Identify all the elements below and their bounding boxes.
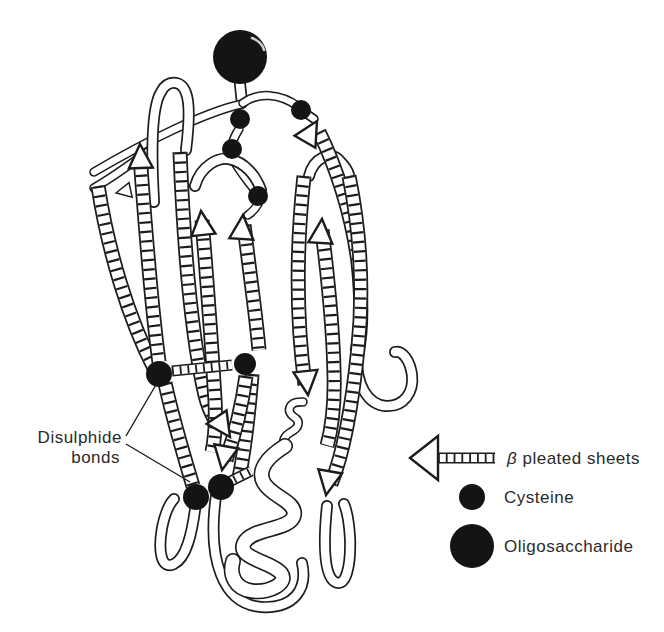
legend-oligosaccharide-circle bbox=[450, 524, 494, 568]
pointer-line-upper bbox=[126, 383, 157, 436]
legend-beta-text: pleated sheets bbox=[517, 449, 640, 468]
beta-strand bbox=[165, 383, 193, 486]
arrowhead-icon bbox=[189, 210, 215, 236]
legend-arrowhead-icon bbox=[410, 436, 438, 480]
beta-strand bbox=[244, 225, 259, 350]
right-hook-loop bbox=[357, 352, 412, 406]
cysteine-dot bbox=[222, 139, 242, 159]
protein-diagram: Disulphide bonds β pleated sheets Cystei… bbox=[0, 0, 664, 632]
legend-label-oligosaccharide: Oligosaccharide bbox=[504, 537, 633, 556]
cysteine-dot bbox=[248, 186, 268, 206]
disulphide-bond-bar bbox=[172, 365, 232, 371]
fork-right-loop bbox=[243, 96, 299, 107]
legend-cysteine-circle bbox=[459, 484, 485, 510]
small-hollow-arrowhead-icon bbox=[114, 183, 132, 201]
beta-strand bbox=[298, 176, 305, 385]
legend: β pleated sheets Cysteine Oligosaccharid… bbox=[410, 436, 640, 568]
cysteine-dot bbox=[230, 109, 250, 129]
beta-strand bbox=[202, 220, 215, 452]
beta-strand bbox=[322, 230, 334, 446]
cysteine-dot bbox=[183, 484, 209, 510]
figure: Disulphide bonds β pleated sheets Cystei… bbox=[0, 0, 664, 632]
cysteine-dot bbox=[234, 353, 256, 375]
legend-label-beta-sheets: β pleated sheets bbox=[506, 449, 640, 468]
disulphide-label-line2: bonds bbox=[71, 448, 120, 467]
bottom-left-hairpin-loop bbox=[160, 499, 196, 565]
cysteine-dot bbox=[208, 474, 234, 500]
oligosaccharide-ball bbox=[213, 30, 267, 84]
bottom-right-hairpin-loop bbox=[325, 504, 350, 583]
cysteine-dot bbox=[146, 361, 172, 387]
arrowhead-icon bbox=[308, 218, 334, 244]
disulphide-label-line1: Disulphide bbox=[38, 428, 122, 447]
oligosaccharide-circle bbox=[213, 30, 267, 84]
legend-label-cysteine: Cysteine bbox=[504, 488, 574, 507]
beta-glyph: β bbox=[506, 449, 517, 468]
cysteine-dot bbox=[291, 100, 311, 120]
